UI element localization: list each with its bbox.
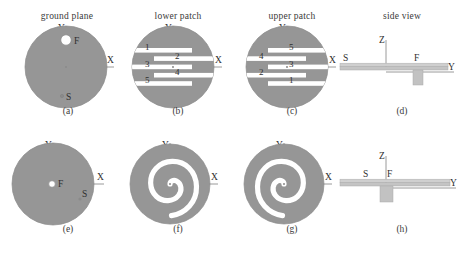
x-axis-label-c: X — [329, 55, 336, 65]
feed-label-a: F — [74, 36, 79, 46]
short-label-e: S — [82, 189, 87, 199]
x-axis-label-a: X — [107, 55, 114, 65]
feed-label-h: F — [387, 169, 392, 179]
x-axis-label-f: X — [211, 172, 218, 182]
substrate-stack-h — [340, 179, 450, 186]
x-axis-label-g: X — [325, 172, 332, 182]
feed-label-e: F — [58, 179, 63, 189]
column-title-lower-patch: lower patch — [118, 11, 238, 21]
slot-label-5-upper: 5 — [289, 42, 294, 52]
slot-label-4-upper: 4 — [259, 51, 264, 61]
caption-d: (d) — [342, 106, 462, 116]
panel-a-ground-plane: Y X F S — [8, 22, 128, 106]
antenna-geometry-figure: ground plane lower patch upper patch sid… — [0, 0, 466, 264]
x-axis-label-b: X — [215, 55, 222, 65]
panel-g-upper-spiral: Y X — [232, 140, 352, 224]
slot-label-3-upper: 3 — [289, 59, 294, 69]
slot-2-lower — [154, 56, 222, 61]
panel-d-side-view: Z Y S F — [340, 22, 466, 106]
slot-label-1-lower: 1 — [145, 42, 150, 52]
origin-marker-a — [65, 66, 67, 68]
panel-h-side-view: Z Y S F — [340, 140, 466, 224]
caption-a: (a) — [8, 106, 128, 116]
slot-1-lower — [124, 48, 192, 53]
panel-e-ground-plane: Y X F S — [8, 140, 128, 224]
slot-label-1-upper: 1 — [289, 75, 294, 85]
caption-e: (e) — [8, 224, 128, 234]
feed-hole-a — [61, 35, 71, 45]
substrate-stack-d — [340, 63, 448, 70]
slot-label-4-lower: 4 — [175, 67, 180, 77]
y-axis-label-d: Y — [448, 62, 455, 72]
slot-label-5-lower: 5 — [145, 75, 150, 85]
panel-b-lower-patch: Y X 1 2 3 4 5 — [118, 22, 238, 106]
slot-5-lower — [124, 81, 192, 86]
slot-3-lower — [124, 65, 192, 70]
slot-1-upper — [268, 81, 336, 86]
origin-marker-b — [172, 66, 174, 68]
feed-post-h — [380, 186, 393, 202]
feed-post-d — [413, 70, 423, 85]
y-axis-label-h: Y — [450, 178, 457, 188]
caption-f: (f) — [118, 224, 238, 234]
slot-4-lower — [154, 73, 222, 78]
panel-c-upper-patch: Y X 5 4 3 2 1 — [232, 22, 352, 106]
slot-label-3-lower: 3 — [145, 59, 150, 69]
slot-label-2-lower: 2 — [175, 51, 180, 61]
slot-5-upper — [268, 48, 336, 53]
column-title-side-view: side view — [342, 11, 462, 21]
feed-label-d: F — [414, 53, 419, 63]
short-label-a: S — [66, 92, 71, 102]
column-title-ground-plane: ground plane — [7, 11, 127, 21]
panel-f-lower-spiral: Y X — [118, 140, 238, 224]
caption-g: (g) — [232, 224, 352, 234]
short-label-h: S — [363, 169, 368, 179]
origin-marker-f — [169, 183, 171, 185]
origin-marker-c — [286, 66, 288, 68]
slot-2-upper — [238, 73, 306, 78]
column-title-upper-patch: upper patch — [232, 11, 352, 21]
short-point-a — [60, 94, 63, 97]
caption-h: (h) — [342, 224, 462, 234]
z-axis-label-d: Z — [379, 35, 385, 45]
caption-b: (b) — [118, 106, 238, 116]
slot-label-2-upper: 2 — [259, 67, 264, 77]
origin-marker-g — [283, 183, 285, 185]
x-axis-label-e: X — [97, 172, 104, 182]
caption-c: (c) — [232, 106, 352, 116]
feed-hole-e — [49, 181, 56, 188]
z-axis-label-h: Z — [379, 151, 385, 161]
short-label-d: S — [343, 53, 348, 63]
slot-4-upper — [238, 56, 306, 61]
slot-3-upper — [268, 65, 336, 70]
